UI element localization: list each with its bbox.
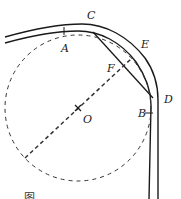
label-f: F (106, 62, 115, 75)
label-c: C (87, 9, 96, 22)
outer-road-edge (5, 24, 158, 199)
figure-caption: 图 (24, 192, 35, 199)
label-b: B (137, 107, 146, 120)
road-curve-diagram: C A E F B D O 图 (0, 0, 181, 199)
label-e: E (140, 38, 149, 51)
label-o: O (83, 113, 92, 126)
label-a: A (60, 42, 69, 55)
label-d: D (163, 93, 173, 106)
center-mark-icon (75, 105, 81, 111)
